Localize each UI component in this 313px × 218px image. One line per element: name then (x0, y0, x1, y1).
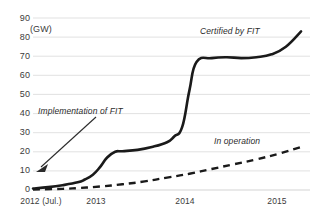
xtick-label-2014: 2014 (165, 196, 205, 206)
xtick-label-2013: 2013 (76, 196, 116, 206)
annotation-certified-by-fit: Certified by FIT (200, 26, 260, 36)
annotation-implementation-of-fit: Implementation of FIT (38, 106, 123, 116)
gridlines (33, 18, 310, 190)
chart-container: 90 80 70 60 50 40 30 20 10 0 (GW) Implem… (0, 0, 313, 218)
xtick-label-2012: 2012 (Jul.) (6, 196, 76, 206)
xtick-label-2015: 2015 (257, 196, 297, 206)
annotation-in-operation: In operation (214, 136, 260, 146)
implementation-arrow (36, 117, 96, 172)
